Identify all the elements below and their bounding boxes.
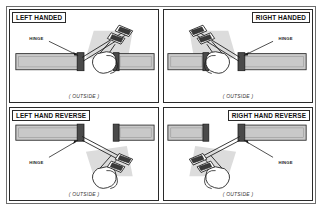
- closer-arm-rail-bottom: [83, 34, 128, 62]
- closer-forearm-link: [100, 155, 112, 168]
- closer-arm-rail-top: [195, 30, 240, 58]
- panel-title-right-hand-reverse: RIGHT HAND REVERSE: [228, 110, 310, 121]
- closer-body: [206, 167, 230, 189]
- closer-forearm-link-2: [107, 159, 117, 170]
- panel-title-left-hand-reverse: LEFT HAND REVERSE: [12, 110, 90, 121]
- closer-arm-rail-top: [82, 30, 127, 58]
- hinge-leader-line: [244, 41, 273, 55]
- hinge-leader-arrow: [73, 140, 78, 144]
- shadow-wedge: [189, 31, 236, 65]
- hinge-cap: [77, 124, 84, 141]
- closer-forearm-link-2: [205, 159, 215, 170]
- door-frame-inner-line: [120, 128, 151, 137]
- closer-body-contour: [205, 55, 216, 73]
- door-frame-segment: [168, 54, 205, 70]
- closer-body-contour: [106, 55, 117, 73]
- door-frame-segment: [117, 125, 154, 140]
- closer-forearm-link-2: [107, 44, 115, 55]
- door-frame-segment: [117, 54, 154, 70]
- hinge-leader-arrow: [244, 140, 249, 144]
- hinge-label-right-hand-reverse: HINGE: [279, 160, 293, 165]
- closer-forearm-link: [211, 155, 223, 168]
- arm-mounting-shoe: [107, 154, 132, 173]
- outside-caption-right-handed: ( OUTSIDE ): [164, 93, 312, 99]
- hinge-label-left-hand-reverse: HINGE: [29, 160, 43, 165]
- hinge-cap: [77, 53, 84, 71]
- shadow-wedge: [189, 146, 236, 176]
- closer-body: [206, 52, 230, 74]
- hinge-leader-line: [49, 41, 78, 55]
- right-handed-illustration: [164, 10, 312, 102]
- door-frame-segment: [168, 125, 205, 140]
- closer-body-contour: [106, 171, 117, 189]
- panel-title-left-handed: LEFT HANDED: [12, 12, 66, 23]
- door-leaf: [240, 54, 306, 70]
- hinge-label-right-handed: HINGE: [279, 36, 293, 41]
- door-leaf: [240, 125, 306, 140]
- hinge-cap: [238, 53, 245, 71]
- frame-end-cap: [113, 53, 119, 71]
- closer-arm-rail-bottom: [193, 140, 240, 165]
- panel-left-hand-reverse: LEFT HAND REVERSE: [9, 107, 159, 201]
- closer-arm-rail-bottom: [194, 34, 239, 62]
- door-leaf: [16, 54, 82, 70]
- hinge-cap: [238, 124, 245, 141]
- closer-body-contour: [205, 171, 216, 189]
- closer-arm-rail-top: [82, 136, 129, 161]
- door-leaf: [16, 125, 82, 140]
- shadow-wedge: [86, 31, 133, 65]
- panel-grid: LEFT HANDED: [7, 7, 315, 203]
- frame-end-cap: [203, 53, 209, 71]
- arm-mounting-shoe: [189, 25, 214, 44]
- arm-mounting-shoe: [189, 154, 214, 173]
- door-frame-inner-line: [171, 128, 202, 137]
- arm-mounting-shoe: [107, 25, 132, 44]
- closer-arm-rail-bottom: [82, 140, 129, 165]
- closer-body: [92, 52, 116, 74]
- closer-arm-rail-top: [193, 136, 240, 161]
- hinge-label-left-handed: HINGE: [29, 36, 43, 41]
- door-leaf-inner-line: [244, 128, 303, 137]
- outside-caption-left-handed: ( OUTSIDE ): [10, 93, 158, 99]
- frame-end-cap: [203, 124, 209, 141]
- door-frame-inner-line: [171, 56, 202, 66]
- left-handed-illustration: [10, 10, 158, 102]
- hinge-leader-arrow: [73, 52, 78, 56]
- right-hand-reverse-illustration: [164, 108, 312, 200]
- door-leaf-inner-line: [244, 56, 303, 66]
- outside-caption-right-hand-reverse: ( OUTSIDE ): [164, 191, 312, 197]
- closer-body: [92, 167, 116, 189]
- panel-right-hand-reverse: RIGHT HAND REVERSE: [163, 107, 313, 201]
- hinge-leader-arrow: [244, 52, 249, 56]
- frame-end-cap: [113, 124, 119, 141]
- door-handing-diagram: LEFT HANDED: [6, 6, 316, 204]
- door-leaf-inner-line: [19, 128, 78, 137]
- panel-right-handed: RIGHT HANDED: [163, 9, 313, 103]
- door-leaf-inner-line: [19, 56, 78, 66]
- outside-caption-left-hand-reverse: ( OUTSIDE ): [10, 191, 158, 197]
- closer-forearm-link-2: [207, 44, 215, 55]
- closer-forearm-link: [212, 41, 223, 53]
- hinge-leader-line: [244, 140, 273, 157]
- panel-left-handed: LEFT HANDED: [9, 9, 159, 103]
- closer-forearm-link: [100, 41, 111, 53]
- shadow-wedge: [86, 146, 133, 176]
- panel-title-right-handed: RIGHT HANDED: [252, 12, 310, 23]
- door-frame-inner-line: [120, 56, 151, 66]
- hinge-leader-line: [49, 140, 78, 157]
- left-hand-reverse-illustration: [10, 108, 158, 200]
